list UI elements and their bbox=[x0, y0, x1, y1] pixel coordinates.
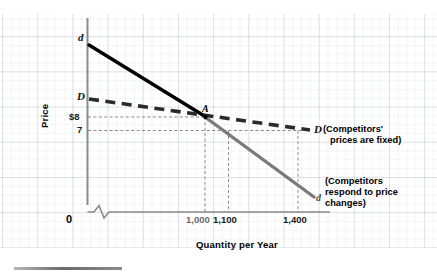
y-tick-label-7: 7 bbox=[77, 125, 82, 136]
chart-screenshot: Price Quantity per Year $8 7 1,000 1,100… bbox=[0, 0, 437, 274]
x-tick-label-1000: 1,000 bbox=[186, 215, 210, 226]
x-tick-label-1400: 1,400 bbox=[283, 215, 307, 226]
point-a-marker bbox=[203, 115, 207, 119]
legend-text-respond-line2: respond to price bbox=[325, 187, 398, 199]
curve-label-d-steep: d bbox=[78, 31, 84, 43]
x-tick-label-1100: 1,100 bbox=[213, 215, 237, 226]
legend-text-fixed-line1: (Competitors' bbox=[323, 124, 383, 136]
legend-text-respond-line3: changes) bbox=[325, 198, 366, 210]
origin-label: 0 bbox=[66, 213, 72, 225]
legend-letter-d-respond: d bbox=[316, 192, 321, 203]
y-axis-title: Price bbox=[40, 104, 51, 128]
legend-text-fixed-line2: prices are fixed) bbox=[330, 135, 401, 147]
curve-label-D-left: D bbox=[77, 90, 85, 102]
point-label-a: A bbox=[202, 103, 209, 114]
y-tick-label-8: $8 bbox=[69, 112, 80, 123]
legend-text-respond-line1: (Competitors bbox=[325, 176, 383, 188]
legend-letter-D-fixed: D bbox=[314, 123, 322, 135]
bottom-divider-bar bbox=[14, 267, 122, 270]
x-axis-title: Quantity per Year bbox=[196, 240, 278, 251]
curve-d-grey bbox=[205, 117, 314, 197]
